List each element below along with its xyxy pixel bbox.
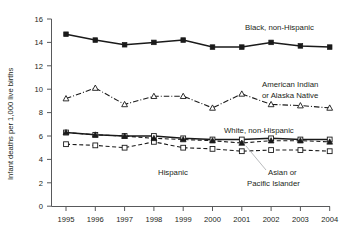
x-ticklabel-2002: 2002 (263, 215, 280, 224)
data-point (92, 85, 98, 90)
y-axis: 16 14 12 10 8 6 4 2 0 (35, 15, 52, 211)
series-label-asian-pacific-line1: Asian or (268, 168, 297, 177)
y-ticklabel-4: 4 (39, 155, 43, 164)
series-asian-or-pacific-islander (64, 139, 332, 153)
data-point (210, 45, 215, 50)
data-point (181, 145, 186, 150)
series-label-american-indian-line1: American Indian (262, 80, 318, 89)
y-ticklabel-10: 10 (35, 85, 43, 94)
y-ticklabel-16: 16 (35, 15, 43, 24)
data-point (327, 149, 332, 154)
data-point (298, 148, 303, 153)
x-ticklabel-1996: 1996 (87, 215, 104, 224)
data-point (269, 40, 274, 45)
data-point (240, 45, 245, 50)
series-black-non-hispanic (64, 32, 332, 49)
data-point (64, 32, 69, 37)
y-ticklabel-8: 8 (39, 108, 43, 117)
data-point (269, 148, 274, 153)
y-ticklabel-6: 6 (39, 132, 43, 141)
x-ticklabel-1995: 1995 (58, 215, 75, 224)
series-line (66, 142, 330, 151)
data-point (210, 105, 216, 110)
data-point (327, 45, 332, 50)
data-point (122, 145, 127, 150)
data-point (180, 93, 186, 98)
data-point (152, 40, 157, 45)
series-label-american-indian-line2: or Alaska Native (262, 91, 318, 100)
x-ticklabel-2001: 2001 (233, 215, 250, 224)
y-ticklabel-12: 12 (35, 62, 43, 71)
infant-mortality-line-chart: Infant deaths per 1,000 live births 16 1… (0, 0, 342, 239)
x-ticklabel-2004: 2004 (321, 215, 338, 224)
data-point (298, 44, 303, 49)
x-ticklabel-1999: 1999 (175, 215, 192, 224)
series-label-white-non-hispanic: White, non-Hispanic (224, 126, 294, 135)
data-point (93, 143, 98, 148)
y-ticklabel-14: 14 (35, 38, 43, 47)
series-line (66, 34, 330, 47)
chart-svg: Infant deaths per 1,000 live births 16 1… (0, 0, 342, 239)
data-point (181, 38, 186, 43)
y-ticklabel-2: 2 (39, 179, 43, 188)
x-ticklabel-2000: 2000 (204, 215, 221, 224)
data-point (122, 42, 127, 47)
x-ticklabel-1997: 1997 (116, 215, 133, 224)
series-label-asian-pacific-line2: Pacific Islander (247, 179, 300, 188)
y-axis-label: Infant deaths per 1,000 live births (6, 68, 15, 180)
data-point (210, 146, 215, 151)
x-axis: 1995 1996 1997 1998 1999 2000 2001 2002 … (52, 207, 339, 225)
data-point (93, 38, 98, 43)
data-point (64, 142, 69, 147)
data-point (239, 91, 245, 96)
x-ticklabel-1998: 1998 (145, 215, 162, 224)
series-label-black-non-hispanic: Black, non-Hispanic (245, 23, 314, 32)
y-ticklabel-0: 0 (39, 202, 43, 211)
asian-pacific-islander-leader-line (246, 146, 266, 170)
x-ticklabel-2003: 2003 (292, 215, 309, 224)
series-label-hispanic: Hispanic (158, 168, 188, 177)
data-point (239, 149, 244, 154)
